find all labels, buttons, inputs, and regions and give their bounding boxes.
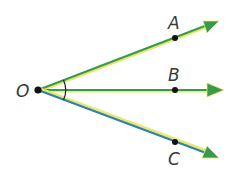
arrowhead-icon: [207, 83, 224, 97]
point-c: [172, 139, 178, 145]
arrowhead-icon: [203, 21, 219, 33]
label-b: B: [168, 65, 180, 85]
arrowhead-icon: [202, 146, 219, 158]
angle-diagram: O A B C: [0, 0, 236, 179]
point-a: [172, 35, 178, 41]
label-a: A: [167, 13, 180, 33]
point-b: [172, 87, 178, 93]
label-c: C: [168, 149, 180, 169]
ray-oc: [38, 89, 219, 159]
label-o: O: [16, 81, 29, 101]
vertex-point-o: [34, 86, 41, 93]
ray-oa: [38, 21, 219, 92]
